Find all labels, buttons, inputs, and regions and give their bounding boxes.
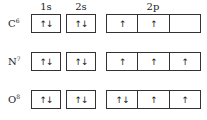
orbital-2p-oxygen: ↑↓ ↑ ↑ bbox=[106, 90, 201, 109]
orbital-1s-oxygen: ↑↓ bbox=[31, 90, 61, 109]
element-label-carbon: C6 bbox=[8, 17, 28, 29]
orbital-2p-nitrogen: ↑ ↑ ↑ bbox=[106, 52, 201, 71]
orbital-1s-nitrogen: ↑↓ bbox=[31, 52, 61, 71]
orbital-1s-carbon: ↑↓ bbox=[31, 14, 61, 33]
orbital-2s-nitrogen: ↑↓ bbox=[66, 52, 96, 71]
electron-arrows: ↑ bbox=[107, 53, 137, 70]
header-1s: 1s bbox=[31, 1, 61, 12]
electron-arrows: ↑ bbox=[169, 53, 200, 70]
electron-arrows bbox=[169, 15, 200, 32]
electron-arrows: ↑↓ bbox=[32, 91, 60, 108]
electron-arrows: ↑ bbox=[169, 91, 200, 108]
electron-arrows: ↑↓ bbox=[32, 53, 60, 70]
electron-arrows: ↑↓ bbox=[32, 15, 60, 32]
orbital-2s-oxygen: ↑↓ bbox=[66, 90, 96, 109]
electron-arrows: ↑ bbox=[137, 91, 168, 108]
electron-arrows: ↑ bbox=[137, 53, 168, 70]
electron-arrows: ↑↓ bbox=[107, 91, 137, 108]
header-2s: 2s bbox=[66, 1, 96, 12]
electron-arrows: ↑↓ bbox=[67, 53, 95, 70]
element-label-nitrogen: N7 bbox=[8, 55, 28, 67]
header-2p: 2p bbox=[106, 1, 200, 12]
electron-arrows: ↑ bbox=[137, 15, 168, 32]
electron-arrows: ↑↓ bbox=[67, 91, 95, 108]
orbital-2p-carbon: ↑ ↑ bbox=[106, 14, 201, 33]
element-label-oxygen: O8 bbox=[8, 93, 28, 105]
electron-arrows: ↑↓ bbox=[67, 15, 95, 32]
orbital-2s-carbon: ↑↓ bbox=[66, 14, 96, 33]
electron-arrows: ↑ bbox=[107, 15, 137, 32]
